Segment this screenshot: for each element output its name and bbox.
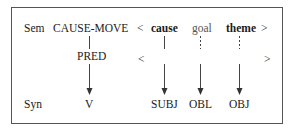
arrowhead-icon	[198, 88, 204, 95]
link-lines	[0, 0, 292, 132]
arrowhead-icon	[162, 88, 168, 95]
arrowhead-icon	[87, 88, 93, 95]
arrowhead-icon	[237, 88, 243, 95]
